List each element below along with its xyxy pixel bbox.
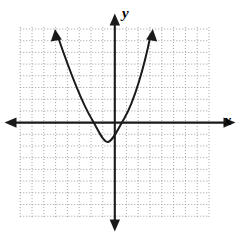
x-axis-arrow-left [5,117,17,127]
parabola-curve [51,29,157,142]
parabola-arrow-left [51,29,62,42]
y-axis-label: y [122,6,129,21]
parabola-arrow-right [146,29,157,42]
y-axis-arrow-up [110,14,120,26]
y-axis-arrow-down [110,220,120,232]
graph-figure: y x [0,0,239,238]
coordinate-plane [0,0,239,238]
x-axis-label: x [224,113,232,128]
